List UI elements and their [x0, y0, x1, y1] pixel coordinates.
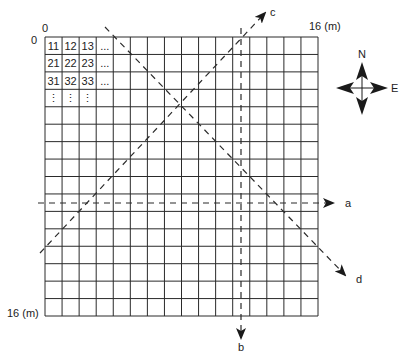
compass-icon: N E [336, 48, 398, 115]
grid-cell-label: ... [100, 40, 109, 52]
grid-cell-label: ... [100, 57, 109, 69]
grid-cell-label: 12 [64, 40, 76, 52]
grid-cell-label: ... [100, 75, 109, 87]
grid-cell-label: 21 [47, 57, 59, 69]
compass-east-label: E [391, 82, 398, 94]
transect-b-label: b [238, 341, 244, 353]
x-end-label: 16 (m) [309, 20, 341, 32]
grid-cell-label: 31 [47, 75, 59, 87]
transect-c-label: c [270, 6, 276, 18]
grid-cell-label: 33 [82, 75, 94, 87]
grid-cell-label: 23 [82, 57, 94, 69]
compass-north-label: N [358, 48, 366, 60]
grid-cell-label: 32 [64, 75, 76, 87]
sampling-grid-diagram: 0 0 16 (m) 16 (m) 111213...212223...3132… [0, 0, 405, 361]
transect-d-line [105, 27, 345, 275]
grid-cell-label: ⋮ [82, 92, 93, 104]
y-origin-label: 0 [31, 34, 37, 46]
grid-cell-label: ⋮ [65, 92, 76, 104]
grid-cell-label: ⋮ [48, 92, 59, 104]
transect-a-label: a [345, 197, 352, 209]
grid-cell-label: 22 [64, 57, 76, 69]
grid-cell-label: 11 [48, 40, 59, 52]
grid-cell-label: 13 [82, 40, 94, 52]
x-origin-label: 0 [42, 22, 48, 34]
transect-d-label: d [356, 273, 362, 285]
y-end-label: 16 (m) [7, 307, 39, 319]
